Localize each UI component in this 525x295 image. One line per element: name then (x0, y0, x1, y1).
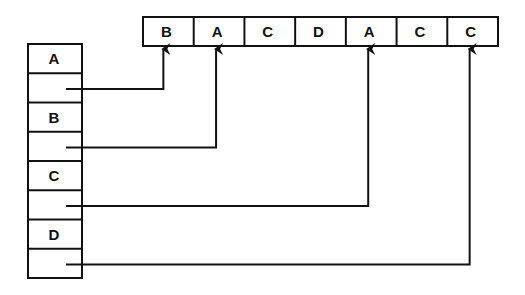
array-cell-4: A (364, 23, 375, 40)
pointer-arrows (66, 49, 470, 264)
array-cell-1: A (212, 23, 223, 40)
pointer-arrow-a (66, 49, 163, 89)
pointer-arrow-c (66, 49, 368, 206)
table-key-d: D (49, 226, 60, 243)
table-key-c: C (49, 167, 60, 184)
pointer-arrow-b (66, 49, 216, 147)
left-table: ABCD (28, 44, 82, 278)
array-cell-6: C (465, 23, 476, 40)
table-key-b: B (49, 109, 60, 126)
pointer-arrow-d (66, 49, 470, 264)
array-cell-2: C (262, 23, 273, 40)
table-key-a: A (49, 50, 60, 67)
pointer-diagram: BACDACC ABCD (0, 0, 525, 295)
array-cell-3: D (313, 23, 324, 40)
array-cell-0: B (161, 23, 172, 40)
top-array: BACDACC (143, 17, 498, 46)
array-cell-5: C (415, 23, 426, 40)
